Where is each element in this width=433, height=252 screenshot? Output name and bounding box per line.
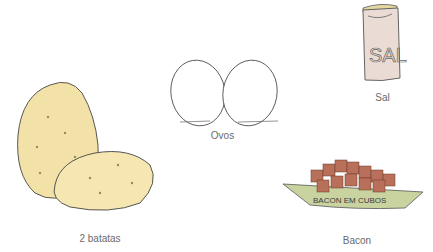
ingredient-label-bacon: Bacon	[337, 235, 377, 246]
ingredient-eggs: Ovos	[160, 55, 285, 150]
ingredient-bacon: BACON EM CUBOS Bacon	[275, 150, 433, 252]
svg-text:SAL: SAL	[369, 44, 407, 66]
ingredient-label-eggs: Ovos	[200, 130, 245, 141]
bacon-cubes-icon: BACON EM CUBOS	[275, 150, 433, 235]
ingredient-label-salt: Sal	[360, 92, 405, 103]
ingredient-salt: SAL Sal	[340, 0, 430, 110]
ingredient-label-potatoes: 2 batatas	[70, 233, 130, 244]
ingredient-potatoes: 2 batatas	[0, 75, 160, 252]
svg-text:BACON EM CUBOS: BACON EM CUBOS	[313, 196, 386, 205]
potatoes-icon	[0, 75, 160, 225]
